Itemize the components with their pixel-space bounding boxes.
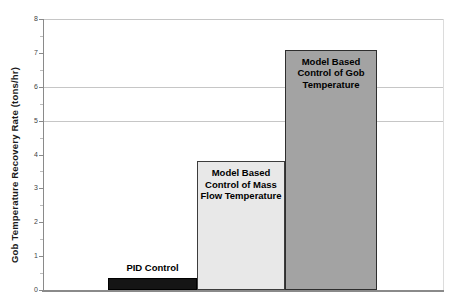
bar-label-line: Control of Gob (282, 67, 380, 79)
bar-label-3: Model BasedControl of GobTemperature (282, 56, 380, 91)
bar-label-2: Model BasedControl of MassFlow Temperatu… (194, 167, 288, 202)
y-tick-label-5: 5 (22, 117, 38, 125)
y-tick-label-8: 8 (22, 15, 38, 23)
gridline-8 (43, 19, 443, 20)
x-axis-line (42, 290, 444, 292)
y-tick-label-7: 7 (22, 49, 38, 57)
gridline-6 (43, 87, 443, 88)
bar-chart: Gob Temperature Recovery Rate (tons/hr) … (0, 0, 463, 307)
gridline-5 (43, 121, 443, 122)
plot-right-border (443, 19, 444, 290)
bar-label-line: Model Based (194, 167, 288, 179)
y-tick-label-4: 4 (22, 151, 38, 159)
y-tick-label-6: 6 (22, 83, 38, 91)
bar-label-line: Flow Temperature (194, 190, 288, 202)
bar-1 (108, 278, 197, 290)
y-tick-label-2: 2 (22, 218, 38, 226)
y-axis-line (43, 19, 44, 290)
y-tick-label-1: 1 (22, 252, 38, 260)
y-axis-title: Gob Temperature Recovery Rate (tons/hr) (9, 67, 20, 263)
y-tick-label-3: 3 (22, 184, 38, 192)
bar-label-line: Temperature (282, 79, 380, 91)
bar-label-line: Control of Mass (194, 179, 288, 191)
bar-label-line: Model Based (282, 56, 380, 68)
y-tick-label-0: 0 (22, 286, 38, 294)
